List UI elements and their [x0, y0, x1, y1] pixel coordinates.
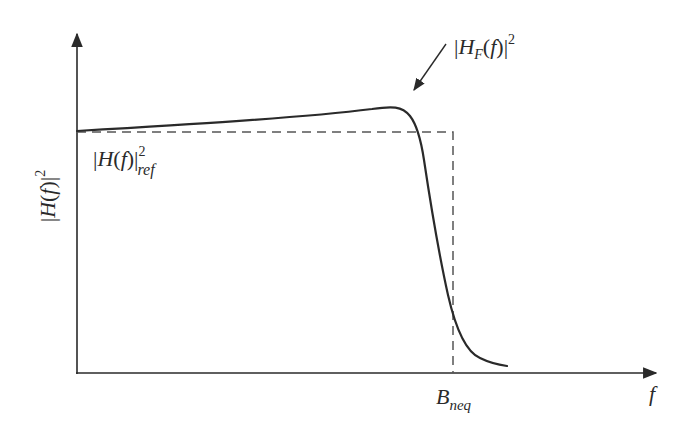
reference-label: |H(f)|2ref — [93, 144, 157, 179]
x-axis-label: f — [649, 381, 658, 406]
y-axis-label: |H(f)|2 — [33, 170, 60, 222]
annotation-arrow — [414, 44, 446, 90]
frequency-response-figure: |H(f)|2 |H(f)|2ref |HF(f)|2 Bneq f — [0, 0, 694, 423]
svg-text:|H(f)|2: |H(f)|2 — [33, 170, 60, 222]
bandwidth-label: Bneq — [436, 384, 472, 413]
curve-label: |HF(f)|2 — [454, 32, 515, 62]
